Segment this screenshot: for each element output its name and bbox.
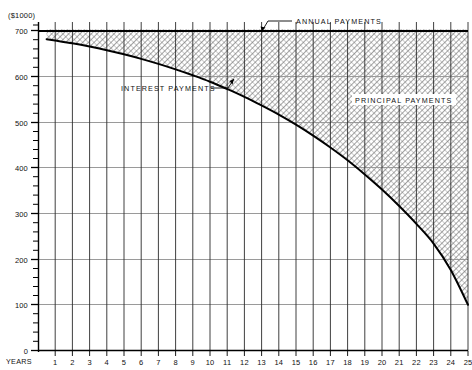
x-tick-label: 11: [223, 358, 231, 367]
x-tick-label: 21: [395, 358, 404, 367]
x-tick-label: 13: [257, 358, 266, 367]
y-tick-label: 700: [15, 27, 28, 36]
x-tick-label: 20: [378, 358, 387, 367]
x-tick-label: 25: [464, 358, 472, 367]
x-tick-label: 6: [139, 358, 143, 367]
x-tick-label: 4: [105, 358, 109, 367]
interest-payments-label: INTEREST PAYMENTS: [121, 84, 216, 93]
y-tick-label: 0: [24, 347, 28, 356]
y-tick-label: 600: [15, 73, 28, 82]
y-tick-label: 500: [15, 119, 28, 128]
x-tick-label: 24: [446, 358, 455, 367]
x-tick-label: 14: [274, 358, 283, 367]
annual-payments-label: ANNUAL PAYMENTS: [296, 17, 382, 26]
x-tick-label: 15: [292, 358, 301, 367]
x-tick-label: 23: [429, 358, 438, 367]
y-tick-label: 200: [15, 256, 28, 265]
x-tick-label: 22: [412, 358, 421, 367]
x-tick-label: 1: [53, 358, 57, 367]
y-tick-label: 400: [15, 164, 28, 173]
x-tick-label: 10: [206, 358, 215, 367]
x-tick-label: 8: [173, 358, 177, 367]
x-tick-label: 9: [191, 358, 195, 367]
x-tick-label: 7: [156, 358, 160, 367]
y-tick-label: 300: [15, 210, 28, 219]
x-tick-label: 2: [70, 358, 74, 367]
x-tick-label: 3: [87, 358, 91, 367]
x-tick-label: 16: [309, 358, 318, 367]
x-tick-label: 12: [240, 358, 249, 367]
x-axis-label: YEARS: [6, 357, 32, 366]
chart-container: 700 600 500 400 300 200 100 0 ($1000): [0, 0, 472, 370]
principal-payments-label: PRINCIPAL PAYMENTS: [355, 96, 452, 105]
loan-amortization-chart: 700 600 500 400 300 200 100 0 ($1000): [0, 0, 472, 370]
x-tick-label: 18: [343, 358, 352, 367]
y-tick-label: 100: [15, 301, 28, 310]
x-tick-label: 5: [122, 358, 126, 367]
y-axis-unit-label: ($1000): [8, 11, 36, 20]
x-tick-label: 19: [360, 358, 369, 367]
x-tick-label: 17: [326, 358, 335, 367]
annotation-principal-payments: PRINCIPAL PAYMENTS: [352, 94, 456, 105]
